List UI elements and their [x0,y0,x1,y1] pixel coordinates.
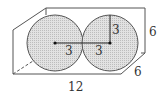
label-radius-left: 3 [65,44,73,58]
hidden-edge [13,61,33,74]
left-center-dot [53,41,56,44]
label-length: 12 [68,80,83,94]
label-radius-vertical: 3 [112,23,120,37]
label-radius-right: 3 [95,44,103,58]
box-spheres-diagram: 3 3 3 6 6 12 [0,0,162,94]
label-height: 6 [149,25,157,39]
right-center-dot [108,41,111,44]
label-depth: 6 [134,65,142,79]
